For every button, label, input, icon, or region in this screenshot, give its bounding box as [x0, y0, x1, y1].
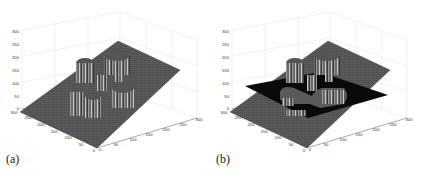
z-axis-ticks: 300 250 200 150 100 50 0 — [222, 29, 230, 111]
svg-text:50: 50 — [14, 94, 19, 99]
svg-text:250: 250 — [12, 42, 20, 47]
svg-text:50: 50 — [289, 142, 294, 147]
svg-text:50: 50 — [79, 142, 84, 147]
svg-text:100: 100 — [275, 135, 283, 140]
svg-text:50: 50 — [224, 94, 229, 99]
svg-text:200: 200 — [12, 55, 20, 60]
svg-text:300: 300 — [11, 110, 19, 115]
svg-text:250: 250 — [180, 122, 188, 127]
svg-text:150: 150 — [356, 132, 364, 137]
svg-text:150: 150 — [146, 132, 154, 137]
svg-text:100: 100 — [65, 135, 73, 140]
svg-text:100: 100 — [222, 81, 230, 86]
panel-label-b: (b) — [216, 152, 230, 166]
svg-text:0: 0 — [93, 148, 96, 153]
svg-text:300: 300 — [221, 110, 229, 115]
svg-text:150: 150 — [12, 68, 20, 73]
z-axis-ticks: 300 250 200 150 100 50 0 — [12, 29, 20, 111]
svg-text:200: 200 — [163, 127, 171, 132]
panel-a: 300 250 200 150 100 50 0 300 250 200 150… — [6, 12, 203, 166]
svg-text:200: 200 — [248, 122, 256, 127]
svg-text:200: 200 — [222, 55, 230, 60]
svg-text:250: 250 — [390, 122, 398, 127]
svg-text:250: 250 — [222, 42, 230, 47]
svg-text:0: 0 — [99, 147, 102, 152]
svg-text:250: 250 — [235, 115, 243, 120]
svg-text:0: 0 — [309, 147, 312, 152]
svg-text:300: 300 — [196, 117, 204, 122]
svg-text:300: 300 — [12, 29, 20, 34]
svg-text:150: 150 — [261, 129, 269, 134]
svg-text:100: 100 — [130, 137, 138, 142]
svg-text:0: 0 — [303, 148, 306, 153]
svg-text:200: 200 — [38, 122, 46, 127]
svg-text:300: 300 — [222, 29, 230, 34]
svg-text:150: 150 — [51, 129, 59, 134]
svg-text:300: 300 — [406, 117, 414, 122]
svg-text:250: 250 — [25, 115, 33, 120]
svg-text:50: 50 — [114, 142, 119, 147]
svg-text:200: 200 — [373, 127, 381, 132]
panel-label-a: (a) — [6, 152, 19, 166]
svg-text:150: 150 — [222, 68, 230, 73]
figure-canvas: 300 250 200 150 100 50 0 300 250 200 150… — [0, 0, 421, 175]
svg-text:100: 100 — [340, 137, 348, 142]
svg-text:100: 100 — [12, 81, 20, 86]
panel-b: 300 250 200 150 100 50 0 300 250 200 150… — [216, 12, 413, 166]
svg-text:50: 50 — [324, 142, 329, 147]
